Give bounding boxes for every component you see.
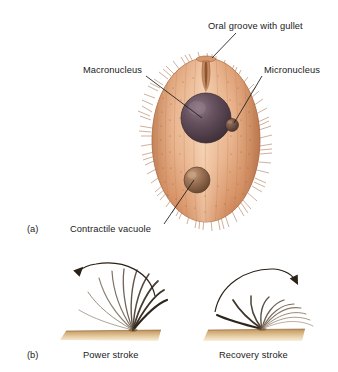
macronucleus-organelle xyxy=(181,93,231,143)
power-stroke-cilia xyxy=(79,269,167,330)
figure-container: Oral groove with gullet Macronucleus Mic… xyxy=(0,0,338,372)
label-macronucleus: Macronucleus xyxy=(83,66,142,75)
label-contractile-vacuole: Contractile vacuole xyxy=(70,225,151,234)
caption-recovery-stroke: Recovery stroke xyxy=(219,351,288,360)
panel-tag-b: (b) xyxy=(27,351,38,360)
paramecium-illustration xyxy=(138,33,272,231)
recovery-stroke-cilia xyxy=(217,296,313,329)
leader-oral-groove xyxy=(212,33,236,58)
power-stroke-illustration xyxy=(60,263,167,341)
label-oral-groove-with-gullet: Oral groove with gullet xyxy=(208,22,303,31)
power-stroke-arrow xyxy=(78,263,155,296)
recovery-stroke-illustration xyxy=(203,269,313,341)
figure-artwork xyxy=(0,0,338,372)
panel-tag-a: (a) xyxy=(27,225,38,234)
power-stroke-substrate xyxy=(60,330,161,341)
micronucleus-organelle xyxy=(226,119,239,132)
label-micronucleus: Micronucleus xyxy=(264,66,320,75)
recovery-stroke-substrate xyxy=(203,329,305,341)
caption-power-stroke: Power stroke xyxy=(83,351,138,360)
